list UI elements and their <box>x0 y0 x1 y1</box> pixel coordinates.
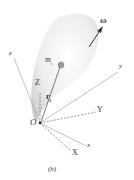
omega-label: ω <box>100 16 107 25</box>
figure-caption: (b) <box>48 166 56 173</box>
position-label-subscript: i <box>50 98 51 103</box>
inertial-Y-label: Y <box>97 106 103 114</box>
body-z-label: z <box>9 50 12 57</box>
inertial-Z-label: Z <box>35 79 40 87</box>
mass-label-subscript: i <box>51 61 52 66</box>
rigid-body-shape <box>31 14 98 122</box>
body-y-label: y <box>119 63 122 70</box>
body-x-axis <box>40 123 86 146</box>
origin-label: O <box>30 118 37 127</box>
mass-particle <box>58 62 64 68</box>
rigid-body-diagram <box>0 0 134 180</box>
mass-label: mi <box>45 56 52 66</box>
inertial-X-label: X <box>72 149 78 157</box>
origin-dot <box>39 122 42 125</box>
inertial-X-axis <box>40 123 70 150</box>
body-x-label: x <box>87 142 90 149</box>
position-vector-label: ri <box>46 93 51 103</box>
